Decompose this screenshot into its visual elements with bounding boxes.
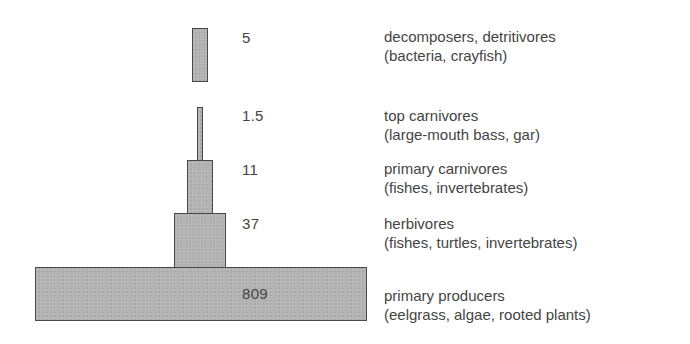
primary-carnivores-label: primary carnivores (fishes, invertebrate… (384, 159, 528, 197)
decomposers-examples: (bacteria, crayfish) (384, 46, 556, 65)
top-carnivores-examples: (large-mouth bass, gar) (384, 125, 540, 144)
herbivores-label: herbivores (fishes, turtles, invertebrat… (384, 214, 577, 252)
top-carnivores-title: top carnivores (384, 106, 540, 125)
primary-producers-label: primary producers (eelgrass, algae, root… (384, 286, 591, 324)
top-carnivores-bar (197, 107, 203, 161)
top-carnivores-value: 1.5 (242, 107, 264, 124)
herbivores-bar (174, 213, 226, 268)
herbivores-value: 37 (242, 215, 259, 232)
decomposers-label: decomposers, detritivores (bacteria, cra… (384, 27, 556, 65)
decomposers-title: decomposers, detritivores (384, 27, 556, 46)
primary-producers-bar (35, 267, 367, 321)
primary-carnivores-examples: (fishes, invertebrates) (384, 178, 528, 197)
decomposers-value: 5 (242, 29, 251, 46)
herbivores-title: herbivores (384, 214, 577, 233)
primary-producers-title: primary producers (384, 286, 591, 305)
decomposers-bar (192, 28, 208, 82)
top-carnivores-label: top carnivores (large-mouth bass, gar) (384, 106, 540, 144)
primary-carnivores-value: 11 (242, 161, 258, 178)
primary-producers-value: 809 (242, 285, 268, 302)
herbivores-examples: (fishes, turtles, invertebrates) (384, 233, 577, 252)
primary-carnivores-title: primary carnivores (384, 159, 528, 178)
primary-producers-examples: (eelgrass, algae, rooted plants) (384, 305, 591, 324)
primary-carnivores-bar (187, 160, 213, 214)
